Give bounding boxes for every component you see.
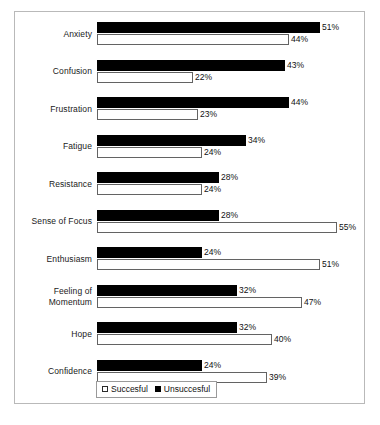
bar-succesful[interactable] xyxy=(97,297,302,308)
bar-row: 44% xyxy=(97,97,366,108)
category-label: Feeling of Momentum xyxy=(15,282,92,312)
bar-value-label: 28% xyxy=(219,209,238,221)
legend-label-succesful: Succesful xyxy=(111,384,148,394)
bar-row: 24% xyxy=(97,147,366,158)
bar-group: Hope32%40% xyxy=(15,319,366,349)
bar-value-label: 32% xyxy=(237,321,256,333)
legend-label-unsuccesful: Unsuccesful xyxy=(164,384,210,394)
open-square-icon xyxy=(102,386,108,392)
page-caption xyxy=(16,413,356,424)
bar-pair: 32%40% xyxy=(97,319,366,349)
bar-row: 32% xyxy=(97,285,366,296)
bar-unsuccesful[interactable] xyxy=(97,60,285,71)
bar-group: Sense of Focus28%55% xyxy=(15,207,366,237)
chart-legend: Succesful Unsuccesful xyxy=(96,381,217,398)
bar-row: 28% xyxy=(97,172,366,183)
bar-row: 55% xyxy=(97,222,366,233)
bar-value-label: 24% xyxy=(202,359,221,371)
bar-pair: 51%44% xyxy=(97,19,366,49)
category-label: Hope xyxy=(15,319,92,349)
bar-value-label: 23% xyxy=(198,108,217,120)
legend-entry-unsuccesful[interactable]: Unsuccesful xyxy=(155,384,210,394)
bar-group: Enthusiasm24%51% xyxy=(15,244,366,274)
bar-value-label: 24% xyxy=(202,146,221,158)
legend-entry-succesful[interactable]: Succesful xyxy=(102,384,148,394)
bar-unsuccesful[interactable] xyxy=(97,210,219,221)
bar-row: 43% xyxy=(97,60,366,71)
bar-succesful[interactable] xyxy=(97,72,193,83)
bar-value-label: 22% xyxy=(193,71,212,83)
bar-succesful[interactable] xyxy=(97,334,272,345)
category-label: Fatigue xyxy=(15,132,92,162)
bar-group: Frustration44%23% xyxy=(15,94,366,124)
chart-frame: Anxiety51%44%Confusion43%22%Frustration4… xyxy=(14,11,365,404)
bar-row: 34% xyxy=(97,135,366,146)
bar-value-label: 43% xyxy=(285,59,304,71)
bar-pair: 28%24% xyxy=(97,169,366,199)
category-label: Resistance xyxy=(15,169,92,199)
bar-pair: 44%23% xyxy=(97,94,366,124)
category-label: Confusion xyxy=(15,57,92,87)
bar-value-label: 51% xyxy=(320,258,339,270)
category-label: Confidence xyxy=(15,357,92,387)
category-label: Sense of Focus xyxy=(15,207,92,237)
bar-unsuccesful[interactable] xyxy=(97,97,289,108)
bar-row: 44% xyxy=(97,34,366,45)
bar-row: 40% xyxy=(97,334,366,345)
bar-row: 28% xyxy=(97,210,366,221)
bar-row: 47% xyxy=(97,297,366,308)
bar-value-label: 55% xyxy=(337,221,356,233)
bar-succesful[interactable] xyxy=(97,184,202,195)
bar-group: Confusion43%22% xyxy=(15,57,366,87)
bar-succesful[interactable] xyxy=(97,222,337,233)
bar-row: 24% xyxy=(97,184,366,195)
bar-pair: 24%51% xyxy=(97,244,366,274)
bar-group: Resistance28%24% xyxy=(15,169,366,199)
category-label: Enthusiasm xyxy=(15,244,92,274)
bar-row: 22% xyxy=(97,72,366,83)
bar-pair: 32%47% xyxy=(97,282,366,312)
bar-value-label: 51% xyxy=(320,21,339,33)
bar-value-label: 44% xyxy=(289,33,308,45)
filled-square-icon xyxy=(155,386,161,392)
bar-row: 51% xyxy=(97,259,366,270)
bar-value-label: 32% xyxy=(237,284,256,296)
bar-value-label: 24% xyxy=(202,183,221,195)
bar-succesful[interactable] xyxy=(97,147,202,158)
bar-group: Anxiety51%44% xyxy=(15,19,366,49)
bar-value-label: 28% xyxy=(219,171,238,183)
bar-unsuccesful[interactable] xyxy=(97,360,202,371)
bar-succesful[interactable] xyxy=(97,109,198,120)
bar-group: Feeling of Momentum32%47% xyxy=(15,282,366,312)
bar-value-label: 24% xyxy=(202,246,221,258)
bar-unsuccesful[interactable] xyxy=(97,247,202,258)
bar-succesful[interactable] xyxy=(97,34,289,45)
bar-pair: 34%24% xyxy=(97,132,366,162)
bar-pair: 28%55% xyxy=(97,207,366,237)
bar-unsuccesful[interactable] xyxy=(97,172,219,183)
bar-value-label: 34% xyxy=(246,134,265,146)
bar-unsuccesful[interactable] xyxy=(97,22,320,33)
bar-row: 23% xyxy=(97,109,366,120)
bar-row: 32% xyxy=(97,322,366,333)
bar-value-label: 40% xyxy=(272,333,291,345)
category-label: Anxiety xyxy=(15,19,92,49)
bar-row: 51% xyxy=(97,22,366,33)
bar-unsuccesful[interactable] xyxy=(97,285,237,296)
bar-unsuccesful[interactable] xyxy=(97,322,237,333)
bar-unsuccesful[interactable] xyxy=(97,135,246,146)
bar-pair: 43%22% xyxy=(97,57,366,87)
bar-value-label: 44% xyxy=(289,96,308,108)
plot-area: Anxiety51%44%Confusion43%22%Frustration4… xyxy=(15,12,366,372)
bar-succesful[interactable] xyxy=(97,259,320,270)
bar-value-label: 47% xyxy=(302,296,321,308)
category-label: Frustration xyxy=(15,94,92,124)
bar-row: 24% xyxy=(97,247,366,258)
bar-group: Fatigue34%24% xyxy=(15,132,366,162)
bar-row: 24% xyxy=(97,360,366,371)
bar-value-label: 39% xyxy=(267,371,286,383)
